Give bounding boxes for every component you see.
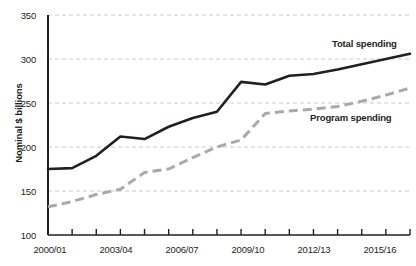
plot-area — [0, 0, 416, 266]
gridlines — [48, 15, 410, 191]
program-spending-line — [48, 88, 410, 207]
total-spending-line — [48, 54, 410, 169]
x-axis-ticks — [48, 229, 410, 235]
spending-line-chart: Nominal $ billions 350 300 250 200 150 1… — [0, 0, 416, 266]
